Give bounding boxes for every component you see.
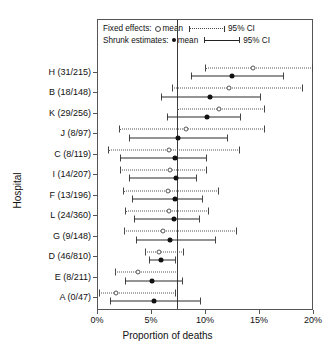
- x-axis-tick-label: 0%: [90, 315, 103, 325]
- dotted-interval-icon: [189, 25, 225, 32]
- legend: Fixed effects: mean 95% CI Shrunk estima…: [103, 23, 311, 46]
- forest-plot-figure: Fixed effects: mean 95% CI Shrunk estima…: [0, 0, 335, 354]
- x-axis-tick: [97, 310, 98, 314]
- x-axis-title: Proportion of deaths: [0, 330, 335, 341]
- y-axis-tick-label: J (8/97): [0, 128, 91, 138]
- solid-interval-icon: [204, 37, 240, 44]
- mean-marker-fixed: [217, 106, 222, 111]
- mean-marker-fixed: [114, 290, 119, 295]
- mean-marker-shrunk: [176, 135, 181, 140]
- y-axis-tick: [93, 154, 97, 155]
- y-axis-tick: [93, 133, 97, 134]
- x-axis-tick-label: 20%: [304, 315, 322, 325]
- mean-marker-fixed: [166, 188, 171, 193]
- y-axis-tick: [93, 92, 97, 93]
- y-axis-tick: [93, 72, 97, 73]
- x-axis-tick-label: 5%: [144, 315, 157, 325]
- open-circle-icon: [155, 26, 161, 32]
- mean-marker-shrunk: [171, 217, 176, 222]
- y-axis-tick: [93, 236, 97, 237]
- y-axis-tick: [93, 113, 97, 114]
- mean-marker-shrunk: [208, 94, 213, 99]
- mean-marker-shrunk: [205, 115, 210, 120]
- mean-marker-shrunk: [158, 258, 163, 263]
- x-axis-tick: [313, 310, 314, 314]
- mean-marker-shrunk: [168, 237, 173, 242]
- mean-marker-fixed: [167, 147, 172, 152]
- x-axis-tick-label: 10%: [196, 315, 214, 325]
- confidence-interval-shrunk: [136, 235, 216, 244]
- mean-marker-shrunk: [172, 156, 177, 161]
- y-axis-tick: [93, 277, 97, 278]
- reference-line: [177, 20, 178, 309]
- confidence-interval-shrunk: [134, 215, 200, 224]
- confidence-interval-shrunk: [129, 174, 197, 183]
- x-axis-tick: [151, 310, 152, 314]
- filled-circle-icon: [172, 38, 176, 42]
- mean-marker-fixed: [226, 86, 231, 91]
- y-axis-tick: [93, 256, 97, 257]
- mean-marker-fixed: [183, 127, 188, 132]
- x-axis-tick-label: 15%: [250, 315, 268, 325]
- y-axis-title: Hospital: [12, 151, 23, 231]
- y-axis-tick-label: E (8/211): [0, 272, 91, 282]
- mean-marker-fixed: [250, 65, 255, 70]
- legend-entry-fixed-effects: Fixed effects: mean 95% CI: [103, 23, 311, 35]
- y-axis-tick-label: H (31/215): [0, 67, 91, 77]
- y-axis-tick: [93, 195, 97, 196]
- y-axis-tick: [93, 174, 97, 175]
- confidence-interval-shrunk: [120, 154, 207, 163]
- mean-marker-fixed: [168, 168, 173, 173]
- mean-marker-fixed: [156, 249, 161, 254]
- mean-marker-fixed: [136, 270, 141, 275]
- mean-marker-fixed: [160, 229, 165, 234]
- confidence-interval-shrunk: [191, 72, 284, 81]
- mean-marker-shrunk: [152, 299, 157, 304]
- y-axis-tick-label: D (46/810): [0, 251, 91, 261]
- legend-label-shrunk-estimates: Shrunk estimates:: [103, 35, 169, 47]
- legend-mean-label-shrunk-estimates: mean: [178, 35, 198, 47]
- y-axis-tick-label: K (29/256): [0, 108, 91, 118]
- mean-marker-fixed: [167, 208, 172, 213]
- y-axis-tick: [93, 297, 97, 298]
- y-axis-tick-label: B (18/148): [0, 87, 91, 97]
- y-axis-tick: [93, 215, 97, 216]
- legend-label-fixed-effects: Fixed effects:: [103, 23, 152, 35]
- legend-mean-label-fixed-effects: mean: [163, 23, 183, 35]
- mean-marker-shrunk: [230, 74, 235, 79]
- mean-marker-shrunk: [172, 196, 177, 201]
- mean-marker-shrunk: [173, 176, 178, 181]
- confidence-interval-shrunk: [132, 194, 203, 203]
- mean-marker-shrunk: [150, 278, 155, 283]
- y-axis-tick-label: G (9/148): [0, 231, 91, 241]
- legend-entry-shrunk-estimates: Shrunk estimates: mean 95% CI: [103, 35, 311, 47]
- legend-ci-label-shrunk-estimates: 95% CI: [243, 35, 270, 47]
- x-axis-tick: [259, 310, 260, 314]
- legend-ci-label-fixed-effects: 95% CI: [228, 23, 255, 35]
- y-axis-tick-label: A (0/47): [0, 292, 91, 302]
- x-axis-tick: [205, 310, 206, 314]
